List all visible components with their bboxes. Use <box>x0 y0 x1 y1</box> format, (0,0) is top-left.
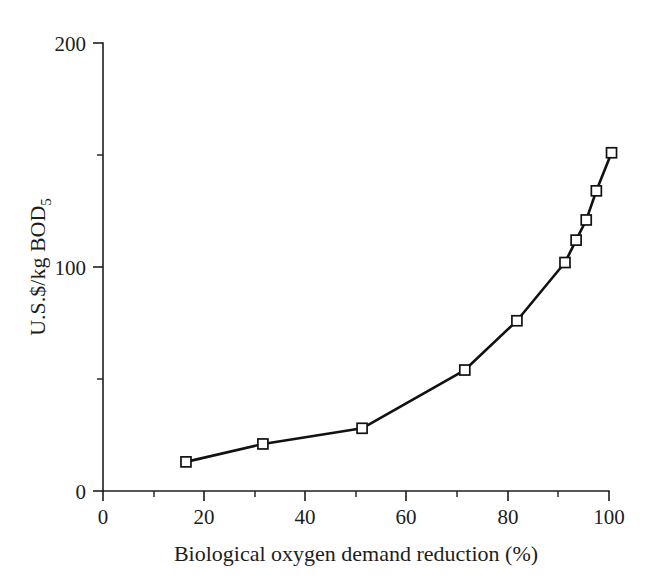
data-point-marker <box>357 423 367 433</box>
y-axis-title-main: U.S.$/kg BOD <box>25 206 50 336</box>
x-tick-label-20: 20 <box>194 505 215 529</box>
x-tick-label-60: 60 <box>396 505 417 529</box>
data-point-marker <box>560 258 570 268</box>
x-axis-title: Biological oxygen demand reduction (%) <box>174 541 538 566</box>
y-axis-major-ticks <box>93 43 103 491</box>
x-tick-label-100: 100 <box>593 505 625 529</box>
data-point-marker <box>591 186 601 196</box>
data-point-marker <box>460 365 470 375</box>
x-tick-label-80: 80 <box>498 505 519 529</box>
y-axis-title: U.S.$/kg BOD5 <box>25 198 54 336</box>
x-tick-label-40: 40 <box>295 505 316 529</box>
data-series-treatment-cost <box>181 148 617 467</box>
x-axis-minor-ticks <box>154 491 558 497</box>
data-point-marker <box>581 215 591 225</box>
data-point-marker <box>512 316 522 326</box>
y-tick-label-200: 200 <box>55 32 87 56</box>
series-line <box>186 153 612 462</box>
y-tick-label-0: 0 <box>76 480 87 504</box>
data-point-marker <box>181 457 191 467</box>
y-tick-label-100: 100 <box>55 256 87 280</box>
y-axis-title-subscript: 5 <box>38 198 54 206</box>
data-point-marker <box>607 148 617 158</box>
data-point-marker <box>258 439 268 449</box>
series-markers <box>181 148 617 467</box>
chart-plot-area: 200 100 0 0 20 40 60 80 100 Biological o… <box>0 0 661 581</box>
x-tick-label-0: 0 <box>98 505 109 529</box>
chart-figure: 200 100 0 0 20 40 60 80 100 Biological o… <box>0 0 661 581</box>
data-point-marker <box>571 235 581 245</box>
svg-text:U.S.$/kg BOD5: U.S.$/kg BOD5 <box>25 198 54 336</box>
